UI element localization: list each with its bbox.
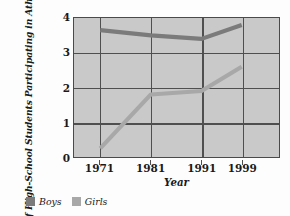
plot-area [73, 17, 280, 158]
series-lines [74, 18, 279, 157]
y-axis-tick-label: 0 [56, 152, 70, 164]
series-line-girls [100, 67, 241, 149]
legend-label: Boys [39, 196, 62, 207]
legend-swatch-girls [72, 197, 81, 206]
x-axis-tick-mark [150, 160, 151, 165]
y-axis-title: Number Of High-School Students Participa… [23, 0, 34, 216]
legend-item-boys: Boys [26, 196, 62, 207]
x-axis-tick-mark [242, 160, 243, 165]
y-axis-tick-label: 2 [56, 82, 70, 94]
y-axis-tick-label: 1 [56, 117, 70, 129]
legend-item-girls: Girls [72, 196, 108, 207]
legend-label: Girls [85, 196, 108, 207]
legend-swatch-boys [26, 197, 35, 206]
x-axis-tick-mark [201, 160, 202, 165]
y-axis-tick-label: 3 [56, 46, 70, 58]
plot-inner [74, 18, 279, 157]
chart-legend: BoysGirls [26, 196, 107, 207]
line-chart-figure: Number Of High-School Students Participa… [0, 0, 290, 216]
series-line-boys [100, 25, 241, 39]
y-axis-tick-label: 4 [56, 11, 70, 23]
x-axis-title: Year [73, 176, 280, 188]
y-axis-title-container: Number Of High-School Students Participa… [6, 14, 52, 160]
y-axis-tick-labels: 01234 [50, 0, 70, 216]
x-axis-tick-mark [99, 160, 100, 165]
